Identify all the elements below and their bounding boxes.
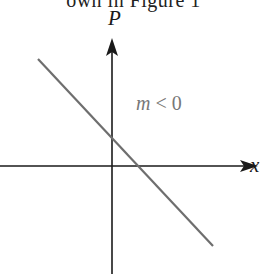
y-axis-label: P [107,6,121,30]
negative-slope-line [38,59,213,246]
x-axis [0,160,258,172]
slope-annotation: m < 0 [136,92,182,114]
diagram-canvas: own in Figure 1 P x m < 0 [0,0,267,274]
y-axis [106,38,118,274]
x-axis-label: x [249,153,260,177]
graph-svg: P x m < 0 [0,0,267,274]
